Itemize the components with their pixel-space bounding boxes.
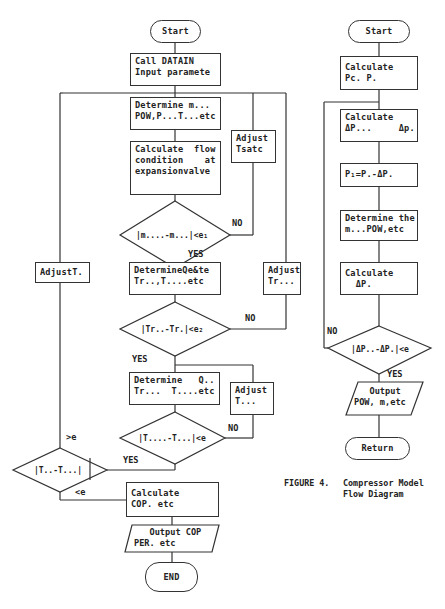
calculate-pc-box: Calculate Pc. P. bbox=[340, 56, 418, 90]
calculate-dps-box: Calculate ΔP. bbox=[340, 262, 418, 295]
adjust-tcond-box: Adjust Tr... bbox=[263, 262, 301, 295]
determine-qe-box: DetermineQe&te Tr..,T....etc bbox=[129, 262, 221, 295]
decision4-gt-label: >e bbox=[66, 432, 76, 442]
decision1-yes-label: YES bbox=[188, 249, 204, 259]
determine-m-box: Determine m... POW,P...T...etc bbox=[130, 97, 221, 130]
adjust-tsatc-box: Adjust Tsatc bbox=[231, 130, 276, 163]
determine-the-box: Determine the m...POW,etc bbox=[340, 210, 418, 241]
start-terminal: Start bbox=[150, 20, 201, 43]
decision4-lt-label: <e bbox=[75, 487, 85, 497]
return-label: Return bbox=[361, 443, 393, 454]
calculate-cop-box: Calculate COP. etc bbox=[126, 482, 219, 517]
decision2-yes-label: YES bbox=[132, 354, 148, 364]
right-start-terminal: Start bbox=[348, 20, 410, 43]
connector-lines bbox=[0, 0, 445, 609]
decision3-no-label: NO bbox=[228, 423, 238, 433]
decision-pressure: |ΔP..-ΔP.|<e bbox=[351, 345, 409, 354]
end-label: END bbox=[163, 572, 179, 583]
decision2-no-label: NO bbox=[245, 313, 255, 323]
end-terminal: END bbox=[145, 562, 198, 592]
output-cop-io: Output COP PER. etc bbox=[134, 527, 201, 549]
figure-number: FIGURE 4. bbox=[284, 478, 329, 489]
decision-temperature-2: |Tr..-Tr.|<e₂ bbox=[141, 325, 204, 334]
return-terminal: Return bbox=[345, 437, 410, 460]
output-pow-io: Output POW, m,etc bbox=[354, 386, 406, 408]
calculate-flow-box: Calculate flow condition at expansionval… bbox=[130, 141, 221, 195]
right-start-label: Start bbox=[366, 26, 393, 37]
call-datain-box: Call DATAIN Input paramete bbox=[130, 53, 221, 86]
decision-mass-flow: |m....-m...|<e₁ bbox=[136, 231, 208, 240]
right-decision-no-label: NO bbox=[327, 326, 337, 336]
adjust-t3-box: Adjust T... bbox=[230, 382, 274, 415]
p1-box: P₁=P.-ΔP. bbox=[340, 163, 418, 187]
adjust-t-left-box: AdjustT. bbox=[35, 262, 90, 283]
start-label: Start bbox=[162, 26, 189, 37]
decision3-yes-label: YES bbox=[123, 455, 139, 465]
right-decision-yes-label: YES bbox=[387, 369, 403, 379]
decision-temperature-4: |T..-T...| bbox=[34, 466, 82, 475]
decision-temperature-3: |T....-T...|<e bbox=[138, 434, 205, 443]
figure-title: Compressor Model Flow Diagram bbox=[343, 478, 424, 500]
determine-q-box: Determine Q.. Tr... T....etc bbox=[129, 372, 220, 405]
decision1-no-label: NO bbox=[232, 218, 242, 228]
calculate-dp-box: Calculate ΔP... Δp. bbox=[340, 109, 418, 142]
